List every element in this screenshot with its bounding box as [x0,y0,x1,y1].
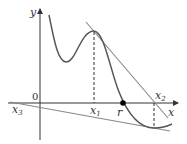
function-curve [49,15,172,128]
tangent-line-x1 [86,22,168,118]
y-axis-label: y [29,6,37,19]
x-axis-label: x [168,106,175,119]
x3-label: x3 [12,103,23,117]
root-point [120,100,126,106]
x2-label: x2 [155,89,166,103]
origin-label: 0 [32,91,38,102]
x1-label: x1 [90,104,101,118]
root-label: r [117,106,123,119]
newton-method-diagram: y 0 x r x1 x2 x3 [0,0,187,144]
